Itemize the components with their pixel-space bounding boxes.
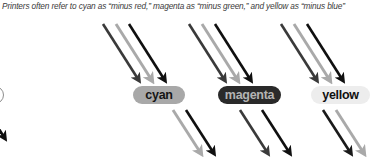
magenta-outgoing-red-ray bbox=[240, 110, 267, 152]
cyan-outgoing-green-ray bbox=[173, 110, 200, 152]
filter-label-yellow[interactable]: yellow bbox=[311, 86, 370, 104]
filter-label-magenta-text: magenta bbox=[225, 88, 274, 102]
yellow-incoming-rays bbox=[281, 24, 342, 79]
magenta-incoming-blue-ray bbox=[215, 24, 250, 79]
cyan-outgoing-blue-ray bbox=[186, 110, 213, 152]
cyan-incoming-rays bbox=[103, 24, 164, 79]
cyan-incoming-blue-ray bbox=[129, 24, 164, 79]
yellow-outgoing-red-ray bbox=[323, 110, 350, 152]
filter-label-yellow-text: yellow bbox=[322, 88, 358, 102]
magenta-incoming-red-ray bbox=[189, 24, 224, 79]
filter-label-cyan[interactable]: cyan bbox=[133, 86, 185, 104]
filter-label-cyan-text: cyan bbox=[145, 88, 172, 102]
magenta-outgoing-blue-ray bbox=[262, 110, 289, 152]
light-ray-arrows bbox=[0, 0, 378, 163]
cyan-outgoing-rays bbox=[173, 110, 213, 152]
cyan-incoming-red-ray bbox=[103, 24, 138, 79]
yellow-incoming-blue-ray bbox=[307, 24, 342, 79]
magenta-incoming-green-ray bbox=[202, 24, 237, 79]
yellow-incoming-green-ray bbox=[294, 24, 329, 79]
figure-caption: Printers often refer to cyan as “minus r… bbox=[2, 1, 378, 12]
partial-pill-left-edge bbox=[0, 86, 4, 104]
magenta-outgoing-rays bbox=[240, 110, 289, 152]
partial-arrow-left-edge bbox=[0, 112, 4, 137]
figure-canvas: Printers often refer to cyan as “minus r… bbox=[0, 0, 378, 163]
yellow-outgoing-rays bbox=[323, 110, 363, 152]
cyan-incoming-green-ray bbox=[116, 24, 151, 79]
filter-label-magenta[interactable]: magenta bbox=[218, 86, 281, 104]
yellow-incoming-red-ray bbox=[281, 24, 316, 79]
magenta-incoming-rays bbox=[189, 24, 250, 79]
yellow-outgoing-green-ray bbox=[336, 110, 363, 152]
